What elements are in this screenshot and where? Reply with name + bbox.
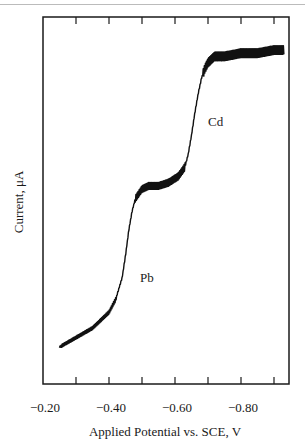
- annotation-pb: Pb: [140, 270, 154, 286]
- x-tick-label: −0.80: [228, 400, 258, 416]
- annotation-cd: Cd: [208, 114, 223, 130]
- current-curve: [60, 46, 284, 348]
- plot-frame: [43, 17, 289, 384]
- polarogram-plot: [0, 0, 305, 447]
- axis-ticks: [76, 17, 274, 384]
- x-tick-label: −0.20: [30, 400, 60, 416]
- x-axis-label: Applied Potential vs. SCE, V: [0, 424, 305, 440]
- x-tick-label: −0.40: [96, 400, 126, 416]
- x-tick-label: −0.60: [162, 400, 192, 416]
- y-axis-label: Current, μA: [11, 171, 27, 234]
